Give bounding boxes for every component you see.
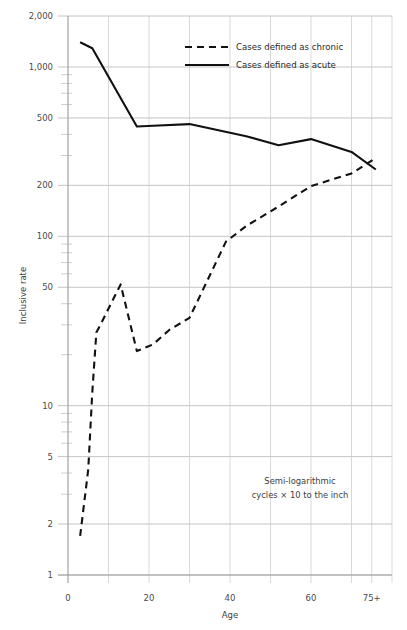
y-axis-title: Inclusive rate [18,267,28,324]
legend-label-0: Cases defined as chronic [236,42,343,52]
chart-legend: Cases defined as chronicCases defined as… [185,42,343,70]
chart-container: 12510501002005001,0002,000020406075+AgeI… [0,0,407,630]
annotation-line-2: cycles × 10 to the inch [252,490,349,500]
x-tick-label: 20 [144,593,155,603]
annotation-line-1: Semi-logarithmic [264,476,336,486]
y-tick-label: 200 [37,180,53,190]
legend-label-1: Cases defined as acute [236,60,336,70]
series-layer [80,42,376,536]
line-chart: 12510501002005001,0002,000020406075+AgeI… [0,0,407,630]
x-tick-label: 60 [306,593,317,603]
y-tick-label: 5 [48,452,53,462]
x-tick-label: 75+ [363,593,381,603]
y-tick-label: 100 [37,231,53,241]
axis-labels-layer: 12510501002005001,0002,000020406075+AgeI… [18,11,381,620]
y-tick-label: 2 [48,519,53,529]
y-tick-label: 50 [42,282,53,292]
chart-annotation: Semi-logarithmiccycles × 10 to the inch [252,476,349,500]
y-tick-label: 1,000 [29,62,53,72]
x-tick-label: 0 [65,593,70,603]
y-tick-label: 500 [37,113,53,123]
x-axis-title: Age [222,610,238,620]
x-tick-label: 40 [225,593,236,603]
y-tick-label: 2,000 [29,11,53,21]
y-tick-label: 10 [42,401,53,411]
y-tick-label: 1 [48,570,53,580]
